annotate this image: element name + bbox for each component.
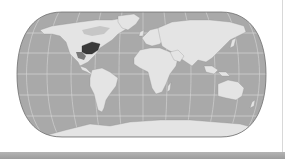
bottom-bar bbox=[0, 152, 285, 159]
world-map[interactable] bbox=[0, 0, 285, 152]
